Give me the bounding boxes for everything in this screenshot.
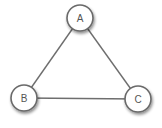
graph-diagram: A B C bbox=[0, 0, 162, 128]
node-b[interactable]: B bbox=[11, 85, 37, 111]
node-a-label: A bbox=[77, 13, 84, 24]
edge-b-c bbox=[24, 98, 138, 99]
node-c-label: C bbox=[134, 94, 141, 105]
node-c[interactable]: C bbox=[125, 86, 151, 112]
edge-a-b bbox=[24, 18, 80, 98]
node-b-label: B bbox=[21, 93, 28, 104]
node-a[interactable]: A bbox=[67, 5, 93, 31]
edge-a-c bbox=[80, 18, 138, 99]
